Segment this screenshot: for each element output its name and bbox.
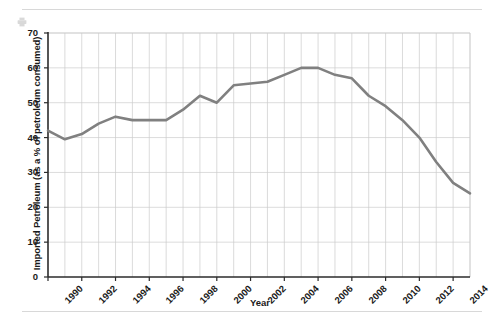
y-tick-label: 40 [16,132,38,143]
plot-canvas [0,0,504,320]
y-tick-label: 30 [16,166,38,177]
plot-background [48,33,470,277]
y-tick-label: 60 [16,62,38,73]
y-tick-label: 10 [16,236,38,247]
y-tick-label: 70 [16,27,38,38]
line-chart: Imported Petroleum (as a % of petroleum … [0,0,504,320]
chart-figure: Imported Petroleum (as a % of petroleum … [0,0,504,320]
y-tick-label: 20 [16,201,38,212]
y-tick-label: 0 [16,271,38,282]
y-tick-label: 50 [16,97,38,108]
